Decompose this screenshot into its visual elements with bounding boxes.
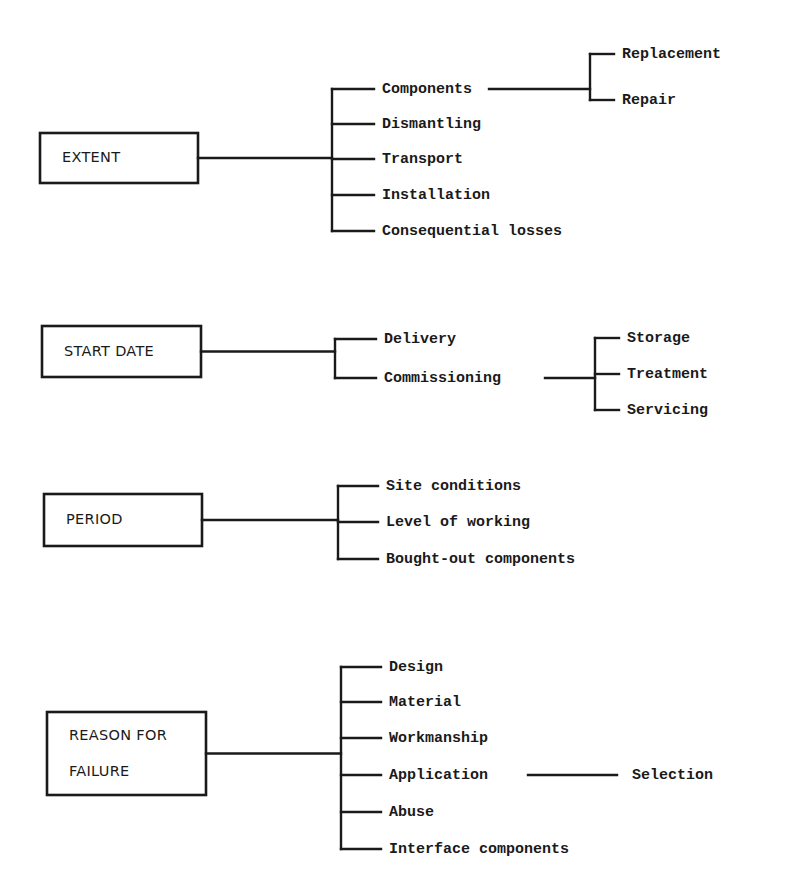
node-label: FAILURE — [69, 763, 130, 779]
branch-label: Material — [389, 694, 461, 711]
group-reason-for-failure: REASON FORFAILUREDesignMaterialWorkmansh… — [47, 659, 713, 858]
node-label: PERIOD — [66, 511, 123, 527]
leaf-label: Replacement — [622, 46, 721, 63]
group-period: PERIODSite conditionsLevel of workingBou… — [44, 478, 575, 568]
node-box-reason-for-failure — [47, 712, 206, 795]
leaf-label: Storage — [627, 330, 690, 347]
branch-label: Interface components — [389, 841, 569, 858]
branch-label: Transport — [382, 151, 463, 168]
branch-label: Application — [389, 767, 488, 784]
branch-label: Workmanship — [389, 730, 488, 747]
node-label: START DATE — [64, 343, 154, 359]
branch-label: Site conditions — [386, 478, 521, 495]
leaf-label: Servicing — [627, 402, 708, 419]
branch-label: Dismantling — [382, 116, 481, 133]
branch-label: Bought-out components — [386, 551, 575, 568]
branch-label: Abuse — [389, 804, 434, 821]
branch-label: Delivery — [384, 331, 456, 348]
leaf-label: Treatment — [627, 366, 708, 383]
node-label: REASON FOR — [69, 727, 167, 743]
leaf-label: Repair — [622, 92, 676, 109]
branch-label: Commissioning — [384, 370, 501, 387]
group-extent: EXTENTComponentsReplacementRepairDismant… — [40, 46, 721, 240]
leaf-label: Selection — [632, 767, 713, 784]
node-label: EXTENT — [62, 149, 120, 165]
tree-diagram: EXTENTComponentsReplacementRepairDismant… — [0, 0, 793, 878]
branch-label: Installation — [382, 187, 490, 204]
group-start-date: START DATEDeliveryCommissioningStorageTr… — [42, 326, 708, 419]
branch-label: Level of working — [386, 514, 530, 531]
branch-label: Consequential losses — [382, 223, 562, 240]
branch-label: Design — [389, 659, 443, 676]
branch-label: Components — [382, 81, 472, 98]
